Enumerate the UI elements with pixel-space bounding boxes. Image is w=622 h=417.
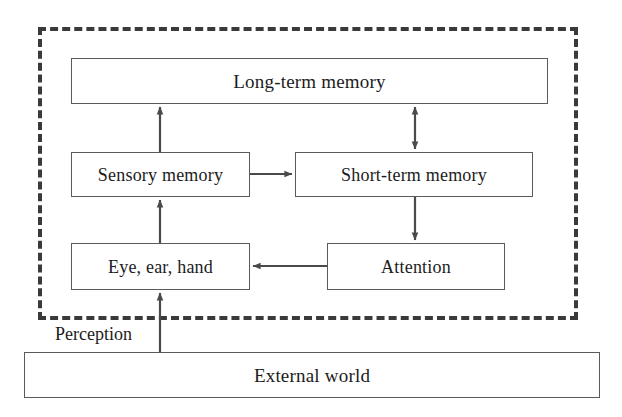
- node-sensory-memory-label: Sensory memory: [98, 166, 223, 184]
- diagram-canvas: Long-term memory Sensory memory Short-te…: [0, 0, 622, 417]
- node-attention[interactable]: Attention: [327, 243, 505, 290]
- node-eye-ear-hand[interactable]: Eye, ear, hand: [71, 243, 250, 290]
- node-short-term-memory-label: Short-term memory: [341, 166, 487, 184]
- node-external-world[interactable]: External world: [24, 352, 600, 398]
- node-long-term-memory[interactable]: Long-term memory: [71, 58, 548, 104]
- node-long-term-memory-label: Long-term memory: [233, 72, 386, 91]
- node-short-term-memory[interactable]: Short-term memory: [295, 152, 533, 197]
- node-sensory-memory[interactable]: Sensory memory: [71, 152, 250, 197]
- node-external-world-label: External world: [254, 366, 370, 385]
- node-attention-label: Attention: [381, 258, 451, 276]
- node-eye-ear-hand-label: Eye, ear, hand: [108, 258, 213, 276]
- edge-label-perception: Perception: [55, 325, 132, 343]
